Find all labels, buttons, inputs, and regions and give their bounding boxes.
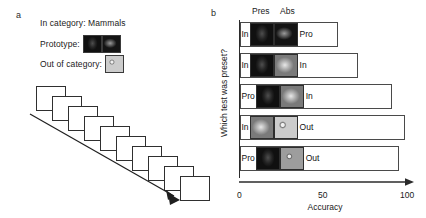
column-header-pres: Pres bbox=[252, 6, 269, 16]
prototype-thumb-deer-dark bbox=[102, 35, 121, 53]
bar-thumb-present bbox=[250, 116, 274, 139]
panel-label-a: a bbox=[16, 10, 21, 20]
bar-thumb-present bbox=[256, 85, 280, 108]
bar-content: Pro Out bbox=[240, 146, 321, 171]
category-legend: In category: Mammals Prototype: Out of c… bbox=[40, 14, 200, 74]
bar-thumb-absent bbox=[274, 23, 298, 46]
out-of-category-thumb-owl bbox=[105, 55, 124, 73]
bar-thumb-absent bbox=[274, 116, 298, 139]
bar-right-label: In bbox=[304, 84, 314, 109]
bar-right-label: Out bbox=[298, 115, 315, 140]
out-of-category-thumbnails bbox=[105, 55, 124, 73]
prototype-row: Prototype: bbox=[40, 34, 200, 53]
x-axis-arrow-icon bbox=[239, 178, 415, 188]
bar-content: Pro In bbox=[240, 84, 314, 109]
bar-left-label: Pro bbox=[240, 84, 256, 109]
category-title-row: In category: Mammals bbox=[40, 14, 200, 33]
bar-thumb-present bbox=[256, 147, 280, 170]
figure-root: a b In category: Mammals Prototype: Out … bbox=[0, 0, 426, 218]
y-axis-label: Which test was preset? bbox=[219, 38, 229, 148]
bar-left-label: In bbox=[240, 53, 250, 78]
column-headers: Pres Abs bbox=[207, 6, 426, 20]
stimulus-sequence-cascade bbox=[24, 84, 214, 208]
prototype-label: Prototype: bbox=[40, 39, 80, 49]
accuracy-bar-chart: Which test was preset? Pres Abs In Pro bbox=[207, 6, 426, 218]
bar-content: In In bbox=[240, 53, 308, 78]
out-of-category-label: Out of category: bbox=[40, 59, 102, 69]
bar-left-label: In bbox=[240, 22, 250, 47]
sequence-frame bbox=[180, 176, 210, 201]
bar-right-label: In bbox=[298, 53, 308, 78]
prototype-thumb-deer-light bbox=[83, 35, 102, 53]
bar-thumb-present bbox=[250, 23, 274, 46]
x-axis-label: Accuracy bbox=[239, 202, 411, 212]
bar-right-label: Pro bbox=[298, 22, 314, 47]
column-header-abs: Abs bbox=[280, 6, 295, 16]
x-tick-100: 100 bbox=[400, 190, 414, 200]
out-of-category-row: Out of category: bbox=[40, 54, 200, 73]
x-tick-50: 50 bbox=[318, 190, 327, 200]
x-tick-0: 0 bbox=[237, 190, 242, 200]
bar-content: In Pro bbox=[240, 22, 314, 47]
bar-thumb-absent bbox=[280, 147, 304, 170]
prototype-thumbnails bbox=[83, 35, 121, 53]
bar-left-label: Pro bbox=[240, 146, 256, 171]
bar-right-label: Out bbox=[304, 146, 321, 171]
bar-left-label: In bbox=[240, 115, 250, 140]
plot-area: In Pro In In Pro bbox=[239, 20, 411, 178]
x-axis: 0 50 100 Accuracy bbox=[239, 178, 411, 188]
in-category-title: In category: Mammals bbox=[40, 17, 126, 30]
bar-thumb-present bbox=[250, 54, 274, 77]
bar-thumb-absent bbox=[274, 54, 298, 77]
bar-thumb-absent bbox=[280, 85, 304, 108]
bar-content: In Out bbox=[240, 115, 315, 140]
